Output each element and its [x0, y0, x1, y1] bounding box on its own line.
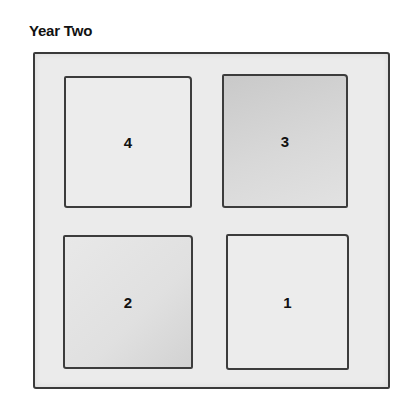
bed-1: 1: [226, 234, 349, 370]
bed-2: 2: [63, 235, 193, 369]
bed-label: 1: [283, 294, 291, 311]
diagram-title: Year Two: [29, 22, 92, 39]
bed-3: 3: [222, 74, 348, 208]
bed-label: 3: [281, 133, 289, 150]
bed-label: 4: [124, 134, 132, 151]
bed-4: 4: [64, 76, 192, 208]
bed-label: 2: [124, 294, 132, 311]
